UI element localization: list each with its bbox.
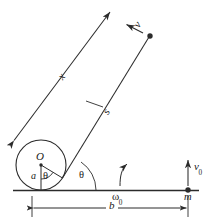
- label-angle-inner-theta: θ: [43, 171, 48, 182]
- label-v0-subscript: 0: [198, 169, 202, 177]
- label-angle-outer-theta: θ: [79, 170, 84, 181]
- omega-arrow: [120, 164, 127, 186]
- label-radius-a: a: [31, 171, 36, 181]
- particle-dot-top: [147, 33, 152, 38]
- physics-diagram: O a θ θ x s v v0 ω0 m b: [0, 0, 214, 221]
- label-velocity-initial-v0: v0: [194, 161, 203, 175]
- label-omega-subscript: 0: [119, 199, 123, 207]
- label-baseline-b: b: [106, 200, 118, 211]
- label-mass-m: m: [184, 192, 192, 203]
- label-center-O: O: [36, 151, 44, 162]
